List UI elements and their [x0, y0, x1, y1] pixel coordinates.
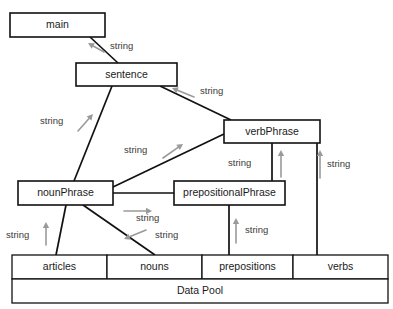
node-main[interactable]: main — [10, 13, 105, 37]
architecture-diagram-svg: stringstringstringstringstringstringstri… — [0, 0, 393, 309]
node-nounPhrase[interactable]: nounPhrase — [18, 181, 113, 205]
edge-label-string-1: string — [200, 85, 223, 96]
data-pool-group: articlesnounsprepositionsverbsData Pool — [12, 255, 388, 303]
pool-cell-articles[interactable]: articles — [12, 255, 107, 279]
pool-cell-label-articles: articles — [43, 260, 76, 272]
flow-arrow-2 — [78, 118, 89, 131]
node-prepositionalPhrase[interactable]: prepositionalPhrase — [174, 181, 285, 205]
flow-arrowhead-4 — [278, 150, 284, 156]
flow-arrow-8 — [130, 230, 146, 237]
flow-arrowhead-7 — [233, 218, 239, 224]
node-label-nounPhrase: nounPhrase — [37, 186, 94, 198]
connector-nounPhrase-to-articles — [56, 205, 66, 255]
node-label-main: main — [46, 18, 69, 30]
edge-label-string-6: string — [136, 212, 159, 223]
node-sentence[interactable]: sentence — [76, 63, 177, 86]
diagram-canvas: stringstringstringstringstringstringstri… — [0, 0, 393, 309]
edge-label-string-5: string — [327, 158, 350, 169]
edge-label-string-0: string — [110, 40, 133, 51]
node-label-verbPhrase: verbPhrase — [245, 125, 299, 137]
pool-cell-label-verbs: verbs — [328, 260, 354, 272]
edge-label-string-7: string — [245, 224, 268, 235]
node-label-prepositionalPhrase: prepositionalPhrase — [183, 186, 276, 198]
node-label-sentence: sentence — [105, 68, 148, 80]
flow-arrowhead-3 — [176, 144, 183, 150]
pool-cell-label-nouns: nouns — [140, 260, 169, 272]
component-group: mainsentenceverbPhrasenounPhrasepreposit… — [10, 13, 320, 205]
flow-arrowhead-9 — [43, 222, 49, 228]
edge-label-string-9: string — [6, 229, 29, 240]
connector-nounPhrase-to-verbPhrase — [113, 134, 224, 187]
edge-label-string-2: string — [40, 115, 63, 126]
pool-cell-nouns[interactable]: nouns — [107, 255, 202, 279]
data-pool-label: Data Pool — [177, 284, 223, 296]
pool-cell-prepositions[interactable]: prepositions — [202, 255, 293, 279]
node-verbPhrase[interactable]: verbPhrase — [224, 120, 320, 143]
connector-sentence-to-nounPhrase — [74, 86, 112, 181]
edge-label-string-3: string — [124, 144, 147, 155]
pool-cell-verbs[interactable]: verbs — [293, 255, 388, 279]
edge-label-string-4: string — [228, 157, 251, 168]
pool-cell-label-prepositions: prepositions — [219, 260, 276, 272]
edge-label-string-8: string — [155, 229, 178, 240]
